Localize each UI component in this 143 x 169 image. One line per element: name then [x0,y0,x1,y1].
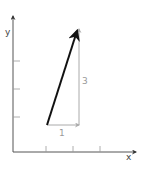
y-ticks [13,61,20,117]
horizontal-component-label: 1 [59,128,65,138]
main-vector-arrow [47,31,77,125]
x-axis-label: x [126,152,132,162]
x-ticks [46,146,100,152]
vector-diagram: y x 1 3 [0,0,143,169]
y-axis-label: y [5,27,11,37]
vertical-component-label: 3 [82,76,88,86]
